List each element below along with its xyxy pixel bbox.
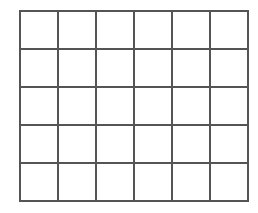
grid-cell — [19, 86, 57, 124]
grid-cell — [19, 162, 57, 200]
grid-cell — [171, 86, 209, 124]
grid-cell — [57, 124, 95, 162]
grid-cell — [209, 86, 247, 124]
grid-cell — [171, 124, 209, 162]
grid-cell — [19, 10, 57, 48]
grid-cell — [171, 48, 209, 86]
grid-cell — [57, 162, 95, 200]
grid-cell — [209, 48, 247, 86]
grid-diagram — [19, 10, 249, 202]
grid-cell — [19, 124, 57, 162]
grid-cell — [133, 10, 171, 48]
grid-cell — [95, 86, 133, 124]
grid-cell — [209, 124, 247, 162]
grid-cell — [95, 10, 133, 48]
grid-cell — [133, 162, 171, 200]
grid-cell — [133, 86, 171, 124]
grid-cell — [133, 48, 171, 86]
grid-cell — [209, 162, 247, 200]
grid-cell — [57, 86, 95, 124]
grid-cell — [171, 10, 209, 48]
grid-cell — [57, 48, 95, 86]
grid-cell — [19, 48, 57, 86]
grid-cell — [209, 10, 247, 48]
grid-cell — [95, 124, 133, 162]
grid-cell — [171, 162, 209, 200]
grid-cell — [95, 48, 133, 86]
grid-cell — [57, 10, 95, 48]
figure-label: ) — [0, 0, 2, 30]
grid-cell — [95, 162, 133, 200]
grid-cell — [133, 124, 171, 162]
